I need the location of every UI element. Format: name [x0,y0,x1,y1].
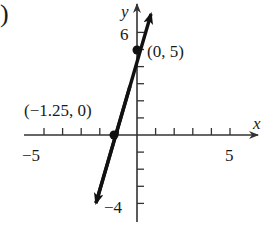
point-x-intercept [110,131,119,140]
y-tick-label-6: 6 [120,25,129,44]
x-tick-label-5: 5 [225,146,234,165]
point-y-intercept [133,46,142,55]
line-graph: ) y x −5 5 6 −4 (0, 5) (−1.25, 0) [0,0,278,228]
point-label-y-intercept: (0, 5) [147,42,184,61]
y-axis-label: y [119,2,129,21]
x-axis-label: x [252,114,261,133]
y-tick-label-neg4: −4 [104,198,123,217]
x-tick-label-neg5: −5 [22,146,40,165]
panel-label: ) [0,0,9,28]
data-line-arrow-down [96,86,130,203]
point-label-x-intercept: (−1.25, 0) [24,101,92,120]
